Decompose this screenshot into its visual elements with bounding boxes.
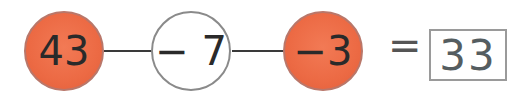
operation-2: −3	[294, 28, 353, 74]
answer-box: 33	[429, 29, 507, 81]
operation-1: − 7	[155, 28, 227, 74]
equals-sign: =	[388, 22, 422, 68]
connector-line-2	[232, 50, 284, 52]
start-number-node: 43	[24, 11, 104, 91]
connector-line-1	[104, 50, 152, 52]
operation-node-1: − 7	[151, 11, 231, 91]
answer-value: 33	[439, 31, 496, 80]
start-number: 43	[39, 28, 90, 74]
operation-node-2: −3	[283, 11, 363, 91]
